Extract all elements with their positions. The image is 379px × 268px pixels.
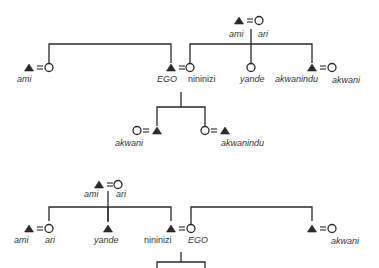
parents-couple bbox=[235, 17, 264, 25]
kinship-diagram: ami EGO nininizi ami ari yande akwanindu… bbox=[0, 0, 379, 268]
left-couple bbox=[25, 64, 54, 72]
label-ari-parent-b: ari bbox=[116, 189, 127, 199]
label-ami-parent-b: ami bbox=[84, 189, 100, 199]
female-circle-icon bbox=[186, 64, 194, 72]
label-ari-b: ari bbox=[45, 235, 56, 245]
label-ego: EGO bbox=[157, 74, 177, 84]
male-triangle-icon bbox=[153, 127, 162, 134]
label-child-akwani: akwani bbox=[115, 138, 144, 148]
female-circle-icon bbox=[255, 17, 263, 25]
female-circle-icon bbox=[328, 64, 336, 72]
female-circle-icon bbox=[328, 225, 336, 233]
label-nininizi-b: nininizi bbox=[144, 235, 172, 245]
child-couple-2 bbox=[201, 127, 230, 135]
male-triangle-icon bbox=[167, 225, 176, 232]
label-yande-b: yande bbox=[93, 235, 119, 245]
sibling-line bbox=[191, 207, 312, 224]
male-triangle-icon bbox=[308, 64, 317, 71]
label-ego-b: EGO bbox=[188, 235, 208, 245]
label-ami-left: ami bbox=[17, 74, 33, 84]
label-akwani: akwani bbox=[332, 75, 361, 85]
male-triangle-icon bbox=[235, 17, 244, 24]
label-nininizi: nininizi bbox=[188, 74, 216, 84]
female-circle-icon bbox=[114, 181, 122, 189]
label-ari-parent: ari bbox=[258, 29, 269, 39]
sibling-line bbox=[49, 207, 171, 221]
ego-couple bbox=[167, 64, 195, 72]
female-circle-icon bbox=[187, 225, 195, 233]
female-circle-icon bbox=[133, 127, 141, 135]
label-akwani-b: akwani bbox=[331, 236, 360, 246]
male-triangle-icon bbox=[104, 225, 113, 232]
sibling-line bbox=[157, 262, 205, 268]
male-triangle-icon bbox=[308, 225, 317, 232]
male-triangle-icon bbox=[25, 64, 34, 71]
male-triangle-icon bbox=[95, 181, 104, 188]
male-triangle-icon bbox=[167, 64, 176, 71]
sibling-line bbox=[157, 107, 205, 126]
child-couple-1 bbox=[133, 127, 162, 135]
label-ami-parent: ami bbox=[229, 29, 245, 39]
label-ami-b: ami bbox=[14, 235, 30, 245]
parents-couple-bottom bbox=[95, 181, 123, 189]
akwanindu-couple bbox=[308, 64, 337, 72]
female-circle-icon bbox=[45, 64, 53, 72]
label-child-akwanindu: akwanindu bbox=[221, 138, 264, 148]
label-akwanindu: akwanindu bbox=[275, 74, 318, 84]
sibling-line bbox=[49, 44, 171, 63]
male-triangle-icon bbox=[25, 225, 34, 232]
child-nininizi-ego bbox=[167, 225, 196, 233]
female-circle-icon bbox=[45, 225, 53, 233]
female-circle-icon bbox=[201, 127, 209, 135]
label-yande: yande bbox=[239, 74, 265, 84]
male-triangle-icon bbox=[221, 127, 230, 134]
right-couple-bottom bbox=[308, 225, 337, 233]
female-circle-icon bbox=[247, 64, 255, 72]
child-ami-ari bbox=[25, 225, 54, 233]
